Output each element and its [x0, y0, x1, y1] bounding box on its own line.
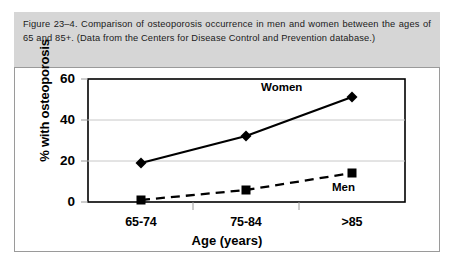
- chart-plot-region: % with osteoporosis 0 20 40 60 65-74 75-…: [15, 69, 439, 251]
- y-axis-tick-label-40: 40: [47, 112, 75, 127]
- y-axis-tick-label-0: 0: [47, 194, 75, 209]
- figure-caption-band: Figure 23–4. Comparison of osteoporosis …: [14, 12, 440, 68]
- series-marker-men-gt85: [348, 169, 357, 178]
- figure-container: Figure 23–4. Comparison of osteoporosis …: [0, 0, 453, 276]
- series-annotation-women: Women: [261, 81, 302, 93]
- y-axis-tick-label-20: 20: [47, 153, 75, 168]
- series-annotation-men: Men: [332, 181, 355, 193]
- series-marker-men-65-74: [137, 196, 146, 205]
- x-axis-tick-label-75-84: 75-84: [201, 215, 291, 229]
- x-axis-title: Age (years): [15, 233, 439, 248]
- x-axis-tick-label-65-74: 65-74: [96, 215, 186, 229]
- y-axis-tick-label-60: 60: [47, 71, 75, 86]
- x-axis-tick-label-gt85: >85: [307, 215, 397, 229]
- y-axis-title: % with osteoporosis: [37, 36, 52, 166]
- series-marker-men-75-84: [242, 186, 251, 195]
- figure-caption-text: Figure 23–4. Comparison of osteoporosis …: [23, 18, 431, 45]
